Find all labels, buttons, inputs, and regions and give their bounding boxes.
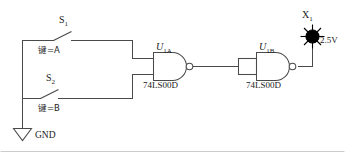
- gate-u1b-invert-bubble: [289, 63, 296, 70]
- ground-label: GND: [35, 131, 56, 141]
- lamp-ref: X1: [302, 10, 313, 23]
- switch-s2-blade[interactable]: [41, 90, 59, 99]
- lamp-bulb[interactable]: [306, 30, 319, 43]
- gate-u1b-input-rect: [239, 59, 257, 75]
- circuit-diagram-canvas: S1 键=A S2 键=B GND U1A 74LS00D U1B 74LS00…: [0, 0, 345, 153]
- lamp-voltage-label: 2.5V: [320, 36, 338, 45]
- ground-symbol: [14, 129, 32, 141]
- switch-s1[interactable]: [54, 32, 72, 41]
- gate-u1a-body[interactable]: [154, 53, 187, 81]
- switch-s2[interactable]: [41, 90, 59, 99]
- switch-s1-key-label: 键=A: [38, 46, 60, 55]
- gate-u1a[interactable]: [154, 53, 193, 81]
- gate-u1a-invert-bubble: [186, 63, 193, 70]
- switch-s1-ref: S1: [59, 15, 68, 28]
- switch-s2-ref: S2: [46, 73, 55, 86]
- switch-s1-blade[interactable]: [54, 32, 72, 41]
- gate-u1b-part-number: 74LS00D: [246, 81, 281, 90]
- gate-u1b-body[interactable]: [257, 53, 290, 81]
- gate-u1b-ref: U1B: [259, 42, 274, 55]
- gate-u1a-part-number: 74LS00D: [143, 81, 178, 90]
- gate-u1a-ref: U1A: [156, 42, 172, 55]
- gate-u1b-input-block: [239, 59, 257, 75]
- gate-u1b[interactable]: [257, 53, 296, 81]
- ground-triangle: [14, 129, 32, 141]
- switch-s2-key-label: 键=B: [38, 104, 60, 113]
